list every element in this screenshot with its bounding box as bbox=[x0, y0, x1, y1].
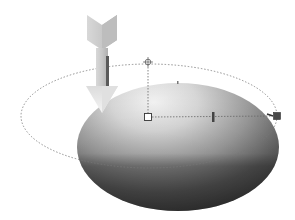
midpoint-slider-handle[interactable] bbox=[212, 112, 215, 122]
center-handle[interactable] bbox=[145, 114, 152, 121]
illustration-canvas bbox=[0, 0, 295, 220]
shape-top-marker bbox=[177, 81, 179, 84]
top-rotation-handle[interactable] bbox=[143, 57, 153, 67]
